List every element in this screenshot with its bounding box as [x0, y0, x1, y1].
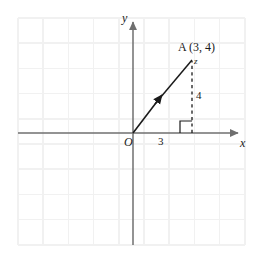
right-angle-marker — [180, 121, 192, 133]
vector-z-label: z — [194, 57, 198, 66]
y-axis-label: y — [122, 12, 127, 24]
vector-segment-upper — [155, 60, 192, 104]
origin-label: O — [124, 136, 133, 148]
horizontal-leg-label: 3 — [158, 136, 164, 147]
x-axis-label: x — [240, 137, 245, 149]
coordinate-plane-figure: y x O A (3, 4) z 3 4 — [0, 0, 262, 263]
point-a-label: A (3, 4) — [178, 41, 215, 53]
plot-canvas — [0, 0, 262, 263]
vertical-leg-label: 4 — [196, 90, 202, 101]
